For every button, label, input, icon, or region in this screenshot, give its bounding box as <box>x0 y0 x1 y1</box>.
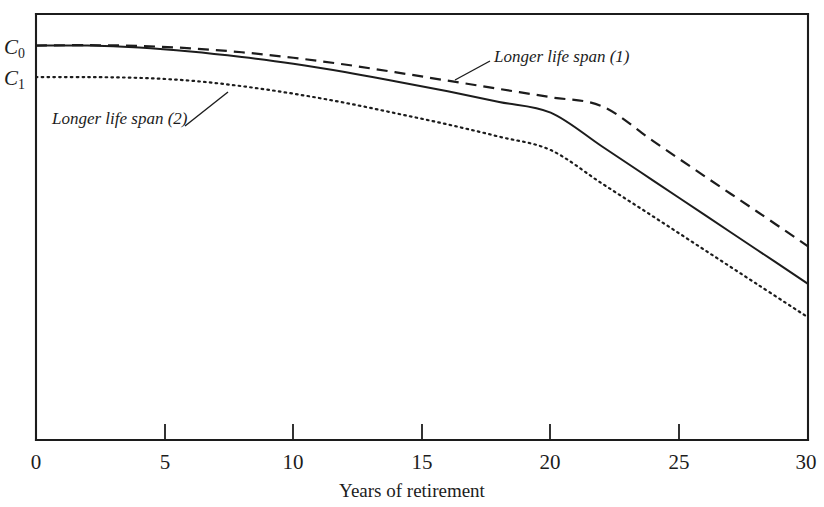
y-axis-label-c1-sub: 1 <box>18 77 25 92</box>
y-axis-label-c0: C0 <box>4 37 25 61</box>
chart-canvas <box>0 0 824 507</box>
x-tick-label-20: 20 <box>530 452 570 473</box>
figure-container: C0 C1 Longer life span (1) Longer life s… <box>0 0 824 507</box>
y-axis-label-c0-base: C <box>4 35 18 59</box>
annotation-longer-life-span-1: Longer life span (1) <box>494 48 630 65</box>
x-tick-label-25: 25 <box>659 452 699 473</box>
x-tick-label-5: 5 <box>145 452 185 473</box>
x-tick-label-30: 30 <box>786 452 824 473</box>
curve-longer-life-span-1 <box>36 45 808 246</box>
leader-line-label-2 <box>185 92 228 126</box>
y-axis-label-c1: C1 <box>4 68 25 92</box>
x-axis-ticks <box>36 424 808 440</box>
x-tick-label-10: 10 <box>273 452 313 473</box>
y-axis-label-c1-base: C <box>4 66 18 90</box>
leader-line-label-1 <box>455 61 490 80</box>
y-axis-label-c0-sub: 0 <box>18 46 25 61</box>
x-tick-label-0: 0 <box>16 452 56 473</box>
curve-baseline <box>36 45 808 283</box>
x-tick-label-15: 15 <box>402 452 442 473</box>
x-axis-title: Years of retirement <box>0 481 824 500</box>
annotation-longer-life-span-2: Longer life span (2) <box>52 110 188 127</box>
